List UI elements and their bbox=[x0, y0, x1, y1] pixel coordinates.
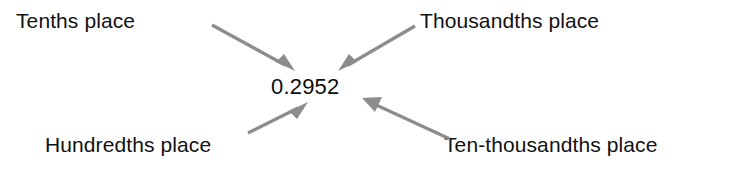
arrow-layer bbox=[0, 0, 733, 176]
arrow-tenths bbox=[212, 25, 295, 71]
arrow-hundredths bbox=[248, 102, 308, 133]
arrow-thousandths bbox=[338, 26, 415, 71]
place-value-diagram: Tenths place Thousandths place Hundredth… bbox=[0, 0, 733, 176]
arrow-ten-thousandths bbox=[362, 97, 450, 139]
